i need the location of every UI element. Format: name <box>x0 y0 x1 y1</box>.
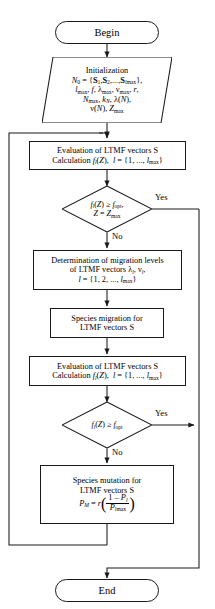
evaluation-1-line-2: Calculation fl(Z), l = {1, ..., lmax} <box>52 156 162 165</box>
species-mutation-formula: PM = r ( 1 – Pl Plmax ) <box>79 495 134 513</box>
decision-1-line-2: Z = Zmax <box>94 209 121 218</box>
node-initialization[interactable]: Initialization N0 = {S1,S2,...,Slmax}, l… <box>42 57 172 123</box>
species-mutation-line-1: Species mutation for <box>73 476 142 485</box>
initialization-text: Initialization N0 = {S1,S2,...,Slmax}, l… <box>42 57 172 123</box>
node-evaluation-1[interactable]: Evaluation of LTMF vectors S Calculation… <box>29 141 186 170</box>
node-begin[interactable]: Begin <box>55 21 159 44</box>
node-end-label: End <box>99 585 116 597</box>
evaluation-1-line-1: Evaluation of LTMF vectors S <box>57 146 158 155</box>
species-migration-line-1: Species migration for <box>71 314 142 323</box>
node-species-migration[interactable]: Species migration for LTMF vectors S <box>50 308 164 338</box>
initialization-line-4: Nmax, kN, λ(N), <box>83 95 131 105</box>
node-decision-1[interactable]: fl(Z) ≥ fopt, Z = Zmax <box>62 186 152 232</box>
migration-levels-line-2: of LTMF vectors λl, νl, <box>70 265 146 274</box>
decision-1-line-1: fl(Z) ≥ fopt, <box>90 200 123 209</box>
decision-2-line-1: fl(Z) ≥ fopt <box>91 420 122 429</box>
decision-1-text: fl(Z) ≥ fopt, Z = Zmax <box>62 186 152 232</box>
decision-1-no-label: No <box>112 231 123 241</box>
decision-2-text: fl(Z) ≥ fopt <box>62 402 152 448</box>
decision-2-no-label: No <box>112 447 123 457</box>
decision-1-yes-label: Yes <box>155 192 168 202</box>
node-migration-levels[interactable]: Determination of migration levels of LTM… <box>33 250 182 290</box>
flowchart-canvas: Begin Initialization N0 = {S1,S2,...,Slm… <box>0 0 215 609</box>
decision-2-yes-label: Yes <box>155 408 168 418</box>
migration-levels-line-3: l = {1, 2, ..., lmax} <box>78 275 136 284</box>
node-evaluation-2[interactable]: Evaluation of LTMF vectors S Calculation… <box>29 356 186 386</box>
initialization-line-2: N0 = {S1,S2,...,Slmax}, <box>72 76 142 86</box>
species-migration-line-2: LTMF vectors S <box>80 323 134 332</box>
node-begin-label: Begin <box>94 27 119 39</box>
evaluation-2-line-1: Evaluation of LTMF vectors S <box>57 362 158 371</box>
initialization-line-5: ν(N), Zmax <box>90 104 123 114</box>
initialization-line-1: Initialization <box>86 66 128 76</box>
edge-loop-back-arrow <box>99 133 107 138</box>
node-end[interactable]: End <box>55 579 159 602</box>
initialization-line-3: lmax, f, λmax, νmax, r, <box>75 85 138 95</box>
evaluation-2-line-2: Calculation fl(Z), l = {1, ..., lmax} <box>52 371 162 380</box>
node-decision-2[interactable]: fl(Z) ≥ fopt <box>62 402 152 448</box>
edge-to-end <box>107 568 115 578</box>
migration-levels-line-1: Determination of migration levels <box>51 256 164 265</box>
node-species-mutation[interactable]: Species mutation for LTMF vectors S PM =… <box>40 465 174 524</box>
